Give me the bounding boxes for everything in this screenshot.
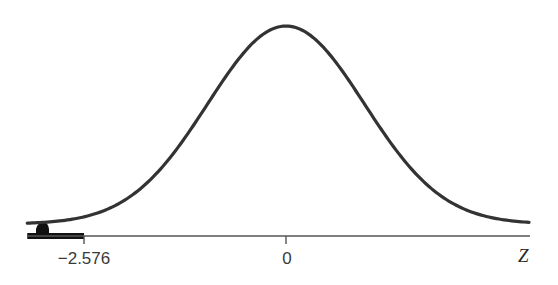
axis-label-z: Z <box>518 245 529 267</box>
tick-label-zero: 0 <box>282 249 291 269</box>
normal-curve-chart <box>0 0 558 285</box>
tick-label-neg-2576: −2.576 <box>58 249 110 269</box>
normal-density-curve <box>27 26 529 223</box>
